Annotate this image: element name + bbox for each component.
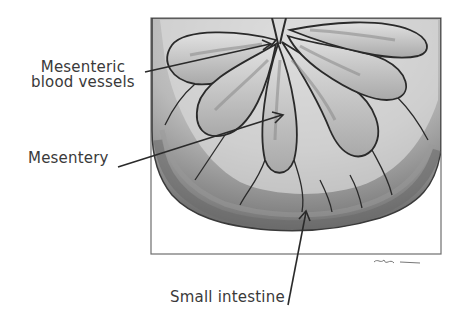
label-line-2: blood vessels [31, 75, 135, 90]
label-mesentery: Mesentery [28, 151, 109, 166]
label-small-intestine: Small intestine [170, 290, 285, 305]
label-mesenteric-blood-vessels: Mesenteric blood vessels [31, 60, 135, 90]
artist-signature [374, 260, 420, 263]
